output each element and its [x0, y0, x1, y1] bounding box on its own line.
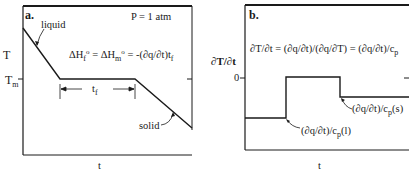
pressure-label: P = 1 atm [131, 12, 171, 23]
cooling-curve [23, 28, 192, 128]
panel-b-letter: b. [249, 9, 259, 21]
x-axis-label-b: t [318, 161, 321, 171]
x-axis-label-a: t [98, 161, 101, 171]
zero-tick-label: 0 [234, 73, 239, 84]
tm-tick-label: Tm [5, 74, 19, 89]
tf-span-label: tf [92, 84, 98, 97]
y-axis-label-dTdt: ∂T/∂t [211, 56, 236, 67]
liquid-label: liquid [41, 20, 66, 31]
liquid-rate-annotation: (∂q/∂t)/cp(l) [301, 126, 351, 139]
solid-pointer [161, 114, 173, 125]
y-axis-label-T: T [3, 49, 10, 61]
panel-a-letter: a. [25, 9, 34, 21]
solid-label: solid [139, 121, 159, 132]
enthalpy-equation: ΔHfo = ΔHmo = -(∂q/∂t)tf [69, 49, 173, 63]
rate-equation: ∂T/∂t = (∂q/∂t)/(∂q/∂T) = (∂q/∂t)/cp [250, 44, 398, 57]
solid-rate-annotation: (∂q/∂t)/cp(s) [352, 104, 403, 117]
